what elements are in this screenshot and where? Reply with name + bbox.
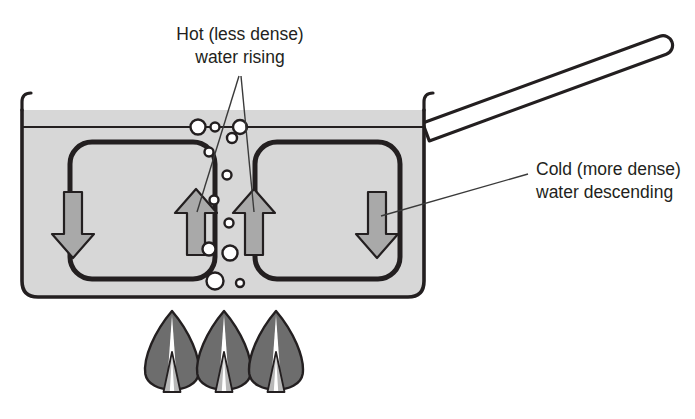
label-hot-line2: water rising [194,47,284,67]
bubble-6 [223,171,232,180]
bubble-12 [236,279,244,287]
convection-diagram: Hot (less dense) water rising Cold (more… [0,0,695,419]
label-hot-line1: Hot (less dense) [176,24,303,44]
burner-flames [145,311,303,392]
diagram-canvas: Hot (less dense) water rising Cold (more… [0,0,695,419]
bubble-11 [207,273,224,290]
bubble-4 [227,133,237,143]
label-cold-line2: water descending [535,182,673,202]
bubble-2 [211,123,220,132]
label-cold-line1: Cold (more dense) [536,159,681,179]
bubble-1 [191,120,206,135]
bubble-5 [205,148,214,157]
bubble-10 [223,246,238,261]
bubble-7 [210,196,219,205]
bubble-8 [225,219,234,228]
bubble-9 [203,243,216,256]
